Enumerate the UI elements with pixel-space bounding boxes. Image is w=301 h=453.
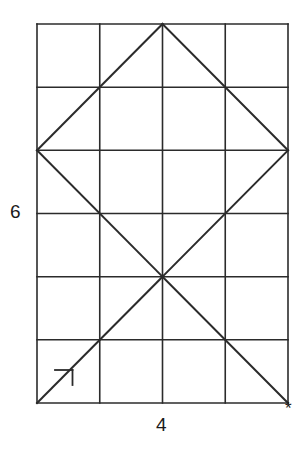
corner-marker-label: * xyxy=(285,400,292,417)
vertical-dimension-label: 6 xyxy=(10,202,21,221)
horizontal-dimension-label: 4 xyxy=(156,415,167,434)
grid-diagram-svg xyxy=(0,0,301,453)
figure-canvas: 6 4 * xyxy=(0,0,301,453)
